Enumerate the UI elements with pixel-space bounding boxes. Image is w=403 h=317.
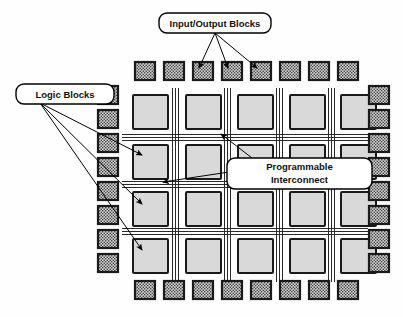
logic-block[interactable] <box>290 95 325 129</box>
io-block[interactable] <box>98 134 118 152</box>
logic-block[interactable] <box>186 95 221 129</box>
io-block[interactable] <box>98 254 118 272</box>
io-block[interactable] <box>280 281 300 299</box>
io-block[interactable] <box>338 281 358 299</box>
io-block[interactable] <box>164 62 184 80</box>
io-block[interactable] <box>98 110 118 128</box>
logic-block[interactable] <box>133 192 168 226</box>
io-block[interactable] <box>309 281 329 299</box>
logic-block[interactable] <box>238 192 273 226</box>
callout-label-interconnect-line1: Programmable <box>266 161 333 172</box>
logic-block[interactable] <box>186 239 221 273</box>
io-block[interactable] <box>251 62 271 80</box>
io-block[interactable] <box>98 206 118 224</box>
io-block[interactable] <box>222 281 242 299</box>
callout-label-logic-blocks: Logic Blocks <box>35 89 94 100</box>
logic-block[interactable] <box>290 192 325 226</box>
io-block[interactable] <box>369 182 389 200</box>
logic-block[interactable] <box>238 239 273 273</box>
fpga-architecture-canvas: Input/Output Blocks Logic Blocks Program… <box>0 0 403 317</box>
io-block[interactable] <box>280 62 300 80</box>
io-block[interactable] <box>338 62 358 80</box>
callout-label-io-blocks: Input/Output Blocks <box>170 18 261 29</box>
callout-programmable-interconnect[interactable]: Programmable Interconnect <box>227 158 372 189</box>
callout-logic-blocks[interactable]: Logic Blocks <box>16 84 114 104</box>
io-block[interactable] <box>135 62 155 80</box>
io-block[interactable] <box>135 281 155 299</box>
fpga-diagram-figure: Input/Output Blocks Logic Blocks Program… <box>0 0 403 317</box>
logic-block[interactable] <box>290 239 325 273</box>
io-block[interactable] <box>98 158 118 176</box>
io-block[interactable] <box>222 62 242 80</box>
io-block[interactable] <box>369 110 389 128</box>
callout-label-interconnect-line2: Interconnect <box>271 174 329 185</box>
io-block[interactable] <box>369 206 389 224</box>
logic-block[interactable] <box>133 95 168 129</box>
logic-block[interactable] <box>133 145 168 179</box>
io-block[interactable] <box>369 254 389 272</box>
io-block[interactable] <box>164 281 184 299</box>
logic-block[interactable] <box>238 95 273 129</box>
io-block[interactable] <box>369 230 389 248</box>
io-block[interactable] <box>369 86 389 104</box>
io-block[interactable] <box>251 281 271 299</box>
io-block[interactable] <box>309 62 329 80</box>
logic-block[interactable] <box>186 192 221 226</box>
io-block[interactable] <box>193 62 213 80</box>
io-block[interactable] <box>193 281 213 299</box>
io-block[interactable] <box>369 134 389 152</box>
io-block[interactable] <box>98 230 118 248</box>
callout-input-output-blocks[interactable]: Input/Output Blocks <box>159 13 271 33</box>
